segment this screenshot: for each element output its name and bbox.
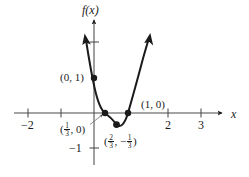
curve-right-arrowhead [144, 33, 153, 45]
y-axis-label: f(x) [82, 4, 99, 16]
paren-close: ) [133, 135, 137, 147]
x-tick-label--2: −2 [21, 119, 34, 131]
graph-figure: f(x) x −2 2 3 −1 (0, 1) (1, 0) (13, 0) (… [0, 0, 249, 177]
fraction-numerator: 2 [108, 134, 114, 142]
point-label-one-third-0: (13, 0) [60, 122, 85, 139]
x-tick-label-3: 3 [198, 119, 204, 131]
fraction-numerator: 1 [127, 134, 133, 142]
fraction-one-third-neg: 13 [127, 134, 133, 151]
point-label-1-0: (1, 0) [141, 99, 165, 110]
fraction-one-third: 13 [64, 122, 70, 139]
fraction-denominator: 3 [127, 141, 133, 150]
point-label-0-1: (0, 1) [60, 72, 84, 83]
label-separator: , − [114, 135, 126, 147]
label-rest: , 0) [70, 123, 85, 135]
fraction-numerator: 1 [64, 122, 70, 130]
point-marker-one-third-0 [102, 110, 108, 116]
paren-open: ( [60, 123, 64, 135]
fraction-denominator: 3 [108, 141, 114, 150]
fraction-two-thirds: 23 [108, 134, 114, 151]
x-axis-label: x [231, 108, 236, 120]
point-marker-1-0 [125, 110, 131, 116]
point-label-vertex: (23, −13) [104, 134, 137, 151]
fraction-denominator: 3 [64, 129, 70, 138]
y-tick-label--1: −1 [69, 142, 82, 154]
point-marker-vertex [113, 121, 120, 128]
x-tick-label-2: 2 [165, 119, 171, 131]
leader-line-one-third [90, 114, 103, 124]
paren-open: ( [104, 135, 108, 147]
point-marker-0-1 [91, 75, 97, 81]
